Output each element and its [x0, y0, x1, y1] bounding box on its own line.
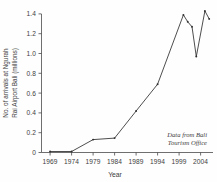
x-tick-label-1974: 1974	[64, 158, 79, 165]
x-tick-label-1969: 1969	[43, 158, 58, 165]
x-tick-label-1994: 1994	[150, 158, 165, 165]
chart-figure: 0 0.2 0.4 0.6 0.8 1.0 1.2 1.4 1969 1974 …	[0, 0, 217, 182]
data-point	[49, 151, 51, 153]
x-tick-label-1999: 1999	[172, 158, 187, 165]
y-tick-label-2: 0.4	[27, 109, 37, 116]
y-axis-title-line1: No. of arrivals at Ngurah	[2, 48, 10, 118]
y-tick-label-5: 1.0	[27, 50, 37, 57]
data-point	[195, 56, 197, 58]
line-chart-canvas: 0 0.2 0.4 0.6 0.8 1.0 1.2 1.4 1969 1974 …	[0, 0, 217, 182]
x-axis-ticks	[50, 153, 201, 156]
y-axis-title: No. of arrivals at Ngurah Rai Airport Ba…	[2, 48, 19, 118]
y-tick-label-6: 1.2	[27, 30, 37, 37]
y-tick-label-3: 0.6	[27, 90, 37, 97]
y-tick-label-1: 0.2	[27, 129, 37, 136]
data-point	[135, 110, 137, 112]
y-tick-label-7: 1.4	[27, 10, 37, 17]
y-tick-label-4: 0.8	[27, 70, 37, 77]
y-axis-ticks	[39, 14, 42, 153]
source-annotation-line2: Tourism Office	[168, 139, 207, 146]
x-tick-label-2004: 2004	[193, 158, 208, 165]
data-point	[157, 83, 159, 85]
y-axis-tick-labels: 0 0.2 0.4 0.6 0.8 1.0 1.2 1.4	[27, 10, 37, 156]
x-tick-label-1984: 1984	[107, 158, 122, 165]
data-point	[182, 14, 184, 16]
y-tick-label-0: 0	[32, 149, 36, 156]
x-tick-label-1979: 1979	[86, 158, 101, 165]
x-tick-label-1989: 1989	[129, 158, 144, 165]
source-annotation-line1: Data from Bali	[166, 131, 207, 138]
source-annotation: Data from Bali Tourism Office	[166, 131, 207, 146]
data-point	[114, 137, 116, 139]
x-axis-tick-labels: 1969 1974 1979 1984 1989 1994 1999 2004	[43, 158, 209, 165]
data-point	[204, 10, 206, 12]
y-axis-title-line2: Rai Airport Bali (millions)	[11, 48, 19, 118]
data-point	[187, 21, 189, 23]
data-point	[191, 26, 193, 28]
x-axis-title: Year	[108, 171, 122, 178]
data-point	[92, 139, 94, 141]
data-point	[71, 151, 73, 153]
data-point	[208, 18, 210, 20]
